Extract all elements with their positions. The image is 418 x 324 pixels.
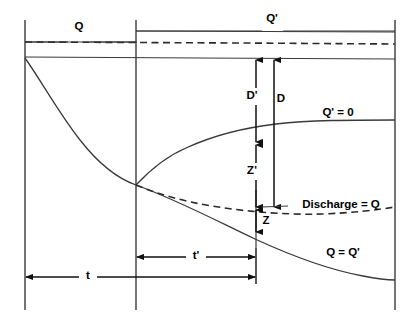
vertical-axes-group (25, 20, 395, 310)
label-z-prime-overlay: Z' (247, 164, 257, 176)
label-q-eq-q-prime: Q = Q' (326, 246, 360, 258)
label-d-prime-overlay: D' (246, 89, 257, 101)
label-d: D (277, 92, 285, 104)
label-q-top-left: Q (75, 20, 84, 32)
figure-svg: Q Q' D' D Q' = 0 Z' Discharge = Q Z Q = … (0, 0, 418, 324)
label-q-prime-zero: Q' = 0 (322, 106, 353, 118)
hydrograph-diagram: Q Q' D' D Q' = 0 Z' Discharge = Q Z Q = … (0, 0, 418, 324)
label-t-prime-overlay: t' (193, 249, 200, 261)
reference-surface-line (25, 57, 395, 59)
label-discharge-eq-q: Discharge = Q (302, 198, 380, 210)
label-t-overlay: t (86, 269, 90, 281)
label-backdrops-group (79, 88, 262, 285)
level-lines-group (25, 31, 395, 59)
rising-curve-qprime-zero (136, 120, 395, 185)
label-z: Z (262, 214, 269, 226)
label-q-prime-top: Q' (266, 12, 278, 24)
discharge-label-leader (262, 206, 288, 207)
labels-group: Q Q' D' D Q' = 0 Z' Discharge = Q Z Q = … (75, 12, 380, 281)
labels-overlay-group: D' Z' t' t (86, 89, 258, 281)
